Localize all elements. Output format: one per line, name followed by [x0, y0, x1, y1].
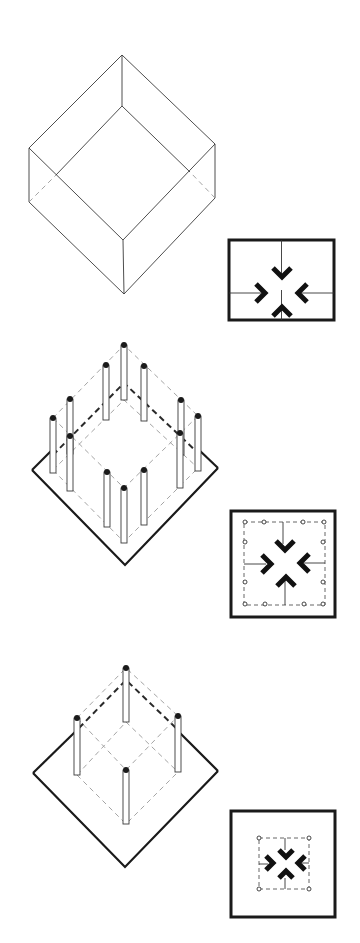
panel-2-plan [231, 511, 335, 617]
panel-2-isometric-columns [32, 342, 218, 565]
panel-1-isometric-cube [29, 55, 215, 294]
panel-1-plan [229, 240, 334, 320]
diagram-canvas [0, 0, 360, 943]
panel-3-plan [231, 811, 335, 917]
panel-3-isometric-columns [33, 665, 218, 867]
